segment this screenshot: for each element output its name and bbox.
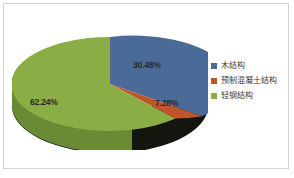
legend-swatch-icon-precast-concrete	[211, 78, 217, 84]
legend-swatch-icon-light-steel	[211, 93, 217, 99]
legend-label-wood: 木结构	[221, 62, 245, 70]
pie-label-precast-concrete: 7.28%	[155, 98, 178, 108]
pie-svg	[12, 18, 208, 150]
pie-chart-3d: 30.48% 7.28% 62.24%	[12, 18, 208, 150]
chart-frame: 30.48% 7.28% 62.24% 木结构 预制混凝土结构 轻钢结构	[3, 3, 289, 169]
legend-item-wood[interactable]: 木结构	[211, 59, 289, 73]
legend-swatch-icon-wood	[211, 63, 217, 69]
legend-label-precast-concrete: 预制混凝土结构	[221, 77, 277, 85]
pie-label-light-steel: 62.24%	[30, 97, 58, 107]
legend-item-light-steel[interactable]: 轻钢结构	[211, 89, 289, 103]
legend-label-light-steel: 轻钢结构	[221, 92, 253, 100]
pie-label-wood: 30.48%	[133, 60, 161, 70]
pie-chart-plot-area: 30.48% 7.28% 62.24% 木结构 预制混凝土结构 轻钢结构	[4, 4, 288, 168]
legend-item-precast-concrete[interactable]: 预制混凝土结构	[211, 74, 289, 88]
chart-legend: 木结构 预制混凝土结构 轻钢结构	[211, 59, 289, 104]
